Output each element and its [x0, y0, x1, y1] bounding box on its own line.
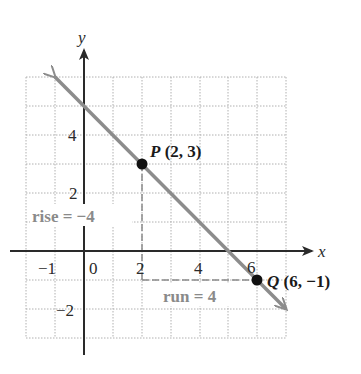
y-tick-label: 4 — [68, 126, 77, 145]
point-q-label: Q (6, −1) — [267, 272, 330, 291]
y-axis-label: y — [76, 28, 86, 47]
x-tick-label: 4 — [194, 259, 203, 278]
coordinate-plane: x y −1 0 2 4 6 4 2 −2 P (2, 3) Q (6, −1)… — [0, 0, 361, 374]
point-p-label: P (2, 3) — [149, 142, 201, 161]
point-p — [137, 159, 148, 170]
rise-label: rise = −4 — [32, 207, 95, 226]
y-tick-label: −2 — [56, 301, 74, 320]
x-tick-label: −1 — [38, 259, 56, 278]
x-axis-label: x — [317, 242, 326, 261]
x-tick-label: 6 — [247, 258, 256, 277]
x-tick-label: 0 — [89, 259, 98, 278]
y-tick-label: 2 — [69, 184, 78, 203]
run-label: run = 4 — [163, 287, 217, 306]
x-tick-label: 2 — [136, 259, 145, 278]
